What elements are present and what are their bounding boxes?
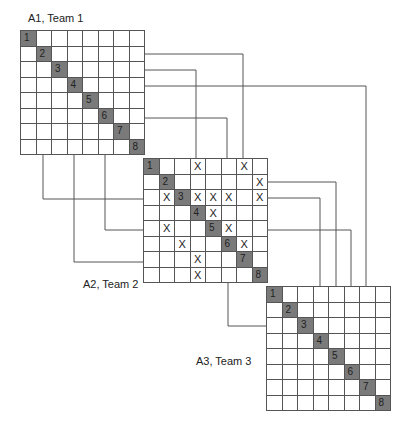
matrix-cell [345, 396, 361, 412]
matrix-cell [253, 221, 269, 237]
dependency-mark: X [253, 176, 268, 188]
matrix-cell: X [206, 206, 222, 222]
matrix-cell [144, 175, 160, 191]
matrix-cell [21, 109, 37, 125]
matrix-cell [360, 349, 376, 365]
connector-line [144, 70, 196, 158]
matrix-cell [298, 365, 314, 381]
matrix-cell [130, 78, 146, 94]
matrix-cell [298, 349, 314, 365]
matrix-cell [83, 124, 99, 140]
matrix-cell [83, 140, 99, 156]
matrix-cell [21, 62, 37, 78]
matrix-cell [99, 93, 115, 109]
diagonal-cell: 1 [21, 31, 37, 47]
matrix-cell [283, 365, 299, 381]
matrix-cell [314, 396, 330, 412]
diagonal-number: 5 [332, 350, 338, 361]
matrix-cell [114, 62, 130, 78]
diagonal-number: 8 [379, 397, 385, 408]
dependency-mark: X [237, 238, 252, 250]
dependency-mark: X [191, 269, 206, 281]
diagonal-number: 3 [178, 191, 184, 202]
diagonal-cell: 2 [283, 303, 299, 319]
diagonal-cell: 6 [222, 237, 238, 253]
matrix-cell [345, 349, 361, 365]
matrix-cell [114, 93, 130, 109]
diagonal-cell: 5 [206, 221, 222, 237]
diagonal-cell: 5 [83, 93, 99, 109]
matrix-cell [37, 93, 53, 109]
matrix-cell [52, 47, 68, 63]
diagonal-cell: 1 [144, 159, 160, 175]
diagonal-number: 3 [301, 319, 307, 330]
connector-line [144, 118, 227, 158]
matrix-cell [68, 31, 84, 47]
matrix-cell [130, 109, 146, 125]
diagonal-number: 6 [102, 110, 108, 121]
label-a2: A2, Team 2 [83, 278, 138, 290]
matrix-cell [329, 318, 345, 334]
matrix-cell [237, 175, 253, 191]
diagonal-cell: 4 [191, 206, 207, 222]
matrix-cell [376, 303, 392, 319]
matrix-cell [283, 318, 299, 334]
diagonal-number: 2 [286, 304, 292, 315]
dependency-mark: X [191, 160, 206, 172]
matrix-cell [329, 334, 345, 350]
diagonal-number: 1 [24, 32, 30, 43]
matrix-cell [160, 268, 176, 284]
matrix-cell: X [160, 190, 176, 206]
matrix-cell [99, 47, 115, 63]
matrix-cell [376, 318, 392, 334]
coupled-dsm-diagram: A1, Team 1 A2, Team 2 A3, Team 3 1234567… [0, 0, 410, 431]
matrix-cell [175, 252, 191, 268]
diagonal-number: 7 [363, 381, 369, 392]
diagonal-number: 5 [209, 222, 215, 233]
matrix-cell [206, 252, 222, 268]
matrix-cell [314, 349, 330, 365]
matrix-cell [21, 93, 37, 109]
connector-line [267, 198, 320, 286]
diagonal-cell: 3 [175, 190, 191, 206]
matrix-cell [99, 140, 115, 156]
matrix-cell [314, 318, 330, 334]
diagonal-number: 8 [256, 269, 262, 280]
matrix-cell [360, 334, 376, 350]
matrix-cell: X [253, 190, 269, 206]
matrix-cell [175, 268, 191, 284]
matrix-cell [114, 78, 130, 94]
matrix-cell [83, 78, 99, 94]
diagonal-number: 6 [225, 238, 231, 249]
dependency-mark: X [237, 160, 252, 172]
matrix-cell [206, 268, 222, 284]
matrix-cell [130, 124, 146, 140]
matrix-cell [52, 140, 68, 156]
matrix-cell [267, 380, 283, 396]
diagonal-cell: 4 [314, 334, 330, 350]
matrix-cell [237, 268, 253, 284]
matrix-cell [298, 380, 314, 396]
matrix-a3: 12345678 [266, 286, 391, 411]
matrix-cell: X [191, 159, 207, 175]
matrix-cell: X [191, 190, 207, 206]
matrix-cell [283, 396, 299, 412]
matrix-cell [360, 396, 376, 412]
matrix-cell [114, 47, 130, 63]
matrix-cell [68, 140, 84, 156]
matrix-cell: X [222, 190, 238, 206]
matrix-cell [21, 47, 37, 63]
matrix-cell [52, 124, 68, 140]
diagonal-cell: 3 [52, 62, 68, 78]
matrix-cell [314, 380, 330, 396]
matrix-cell [52, 78, 68, 94]
matrix-cell [130, 62, 146, 78]
dependency-mark: X [222, 191, 237, 203]
matrix-cell [114, 31, 130, 47]
connector-line [43, 155, 143, 199]
matrix-cell: X [253, 175, 269, 191]
diagonal-number: 3 [55, 63, 61, 74]
matrix-cell [68, 62, 84, 78]
diagonal-cell: 7 [360, 380, 376, 396]
matrix-cell [222, 206, 238, 222]
